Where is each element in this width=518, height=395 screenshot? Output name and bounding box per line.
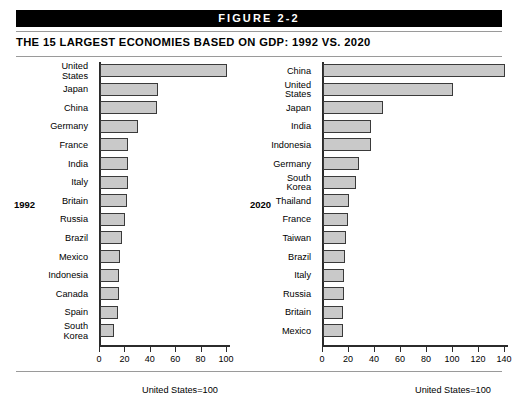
x-axis-line	[99, 345, 230, 347]
bar	[323, 120, 371, 133]
bar	[323, 269, 344, 282]
x-axis-tick	[348, 347, 349, 352]
bar	[323, 194, 349, 207]
bar	[100, 64, 227, 77]
bar	[323, 64, 505, 77]
bar	[323, 287, 344, 300]
bar	[100, 250, 120, 263]
category-label: South Korea	[250, 174, 311, 193]
divider-bottom	[16, 371, 502, 372]
category-label: Indonesia	[0, 271, 88, 281]
x-axis-tick	[426, 347, 427, 352]
bar	[100, 287, 119, 300]
category-label: Spain	[0, 308, 88, 318]
bar	[100, 213, 125, 226]
bar	[100, 138, 128, 151]
bar	[100, 231, 122, 244]
bar	[100, 324, 114, 337]
bar	[323, 138, 371, 151]
x-axis-tick	[400, 347, 401, 352]
bar	[100, 157, 128, 170]
x-axis-line	[322, 345, 508, 347]
scale-annotation: United States=100	[415, 385, 491, 395]
category-label: Italy	[250, 271, 311, 281]
category-label: Canada	[0, 290, 88, 300]
bar	[323, 306, 343, 319]
x-axis-tick	[452, 347, 453, 352]
bar	[323, 83, 453, 96]
category-label: Thailand	[250, 197, 311, 207]
category-label: France	[0, 141, 88, 151]
category-label: Taiwan	[250, 234, 311, 244]
category-label: Britain	[0, 197, 88, 207]
category-label: Brazil	[250, 253, 311, 263]
x-axis-tick	[124, 347, 125, 352]
category-label: South Korea	[0, 322, 88, 341]
figure-banner: FIGURE 2-2	[16, 10, 502, 27]
x-axis-tick	[99, 347, 100, 352]
bar	[100, 269, 119, 282]
bar	[323, 213, 348, 226]
category-label: Italy	[0, 178, 88, 188]
x-axis-tick	[322, 347, 323, 352]
bar	[323, 101, 383, 114]
category-label: United States	[0, 62, 88, 81]
bar	[323, 176, 356, 189]
category-label: United States	[250, 81, 311, 100]
figure-title: THE 15 LARGEST ECONOMIES BASED ON GDP: 1…	[16, 36, 371, 48]
category-label: Germany	[0, 122, 88, 132]
x-axis-tick	[478, 347, 479, 352]
x-axis-tick-label: 100	[211, 354, 241, 364]
x-axis-tick-label: 140	[489, 354, 518, 364]
chart-panel-2020: 2020020406080100120140ChinaUnited States…	[250, 60, 518, 365]
bar	[323, 250, 345, 263]
bar	[323, 231, 346, 244]
bar	[323, 324, 343, 337]
bar	[100, 176, 128, 189]
category-label: India	[0, 160, 88, 170]
category-label: Mexico	[0, 253, 88, 263]
divider-top	[16, 31, 502, 32]
category-label: France	[250, 215, 311, 225]
category-label: Germany	[250, 160, 311, 170]
category-label: Russia	[250, 290, 311, 300]
bar	[100, 101, 157, 114]
bar	[323, 157, 359, 170]
chart-panel-1992: 1992020406080100United StatesJapanChinaG…	[0, 60, 250, 365]
category-label: India	[250, 122, 311, 132]
x-axis-tick	[201, 347, 202, 352]
figure-banner-label: FIGURE 2-2	[16, 10, 502, 27]
category-label: Indonesia	[250, 141, 311, 151]
category-label: Russia	[0, 215, 88, 225]
bar	[100, 83, 158, 96]
category-label: China	[250, 67, 311, 77]
x-axis-tick	[226, 347, 227, 352]
x-axis-tick	[175, 347, 176, 352]
x-axis-tick	[150, 347, 151, 352]
category-label: China	[0, 104, 88, 114]
divider-mid	[16, 56, 502, 57]
category-label: Japan	[250, 104, 311, 114]
bar	[100, 306, 118, 319]
bar	[100, 120, 138, 133]
scale-annotation: United States=100	[142, 385, 218, 395]
bar	[100, 194, 127, 207]
category-label: Mexico	[250, 327, 311, 337]
x-axis-tick	[504, 347, 505, 352]
category-label: Japan	[0, 85, 88, 95]
category-label: Brazil	[0, 234, 88, 244]
x-axis-tick	[374, 347, 375, 352]
category-label: Britain	[250, 308, 311, 318]
